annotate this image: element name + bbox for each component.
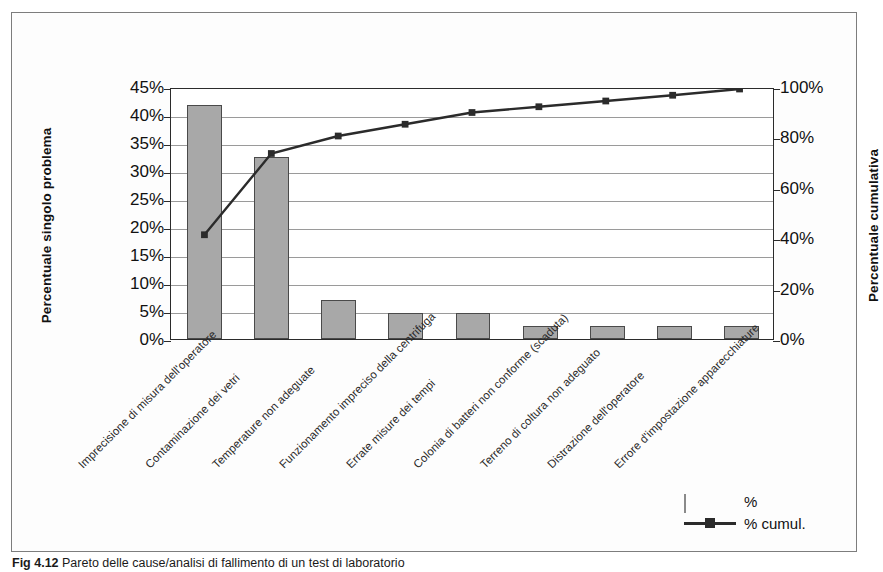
figure-frame: Percentuale singolo problema Percentuale…: [11, 12, 857, 552]
y-axis-right-tick-label: 80%: [780, 129, 836, 147]
y-axis-right-tick-label: 100%: [780, 79, 836, 97]
y-tick-mark-right: [773, 341, 780, 342]
y-axis-right-title: Percentuale cumulativa: [866, 126, 881, 326]
legend-swatch-icon: [684, 495, 736, 508]
legend: % % cumul.: [684, 490, 854, 534]
y-tick-mark-left: [164, 285, 171, 286]
y-tick-mark-left: [164, 173, 171, 174]
y-tick-mark-right: [773, 89, 780, 90]
y-axis-left-tick-label: 45%: [108, 79, 164, 97]
y-tick-mark-left: [164, 341, 171, 342]
y-tick-mark-right: [773, 139, 780, 140]
y-axis-right-ticks: 0%20%40%60%80%100%: [780, 79, 836, 331]
y-axis-left-tick-label: 25%: [108, 191, 164, 209]
cumulative-marker: Terreno di coltura non adeguato: 95.2%: [602, 98, 609, 105]
legend-line-marker-icon: [684, 517, 736, 530]
cumulative-marker: Errore d'impostazione apparecchiature: 1…: [736, 89, 743, 92]
y-tick-mark-left: [164, 257, 171, 258]
y-axis-left-tick-label: 5%: [108, 303, 164, 321]
y-tick-mark-left: [164, 201, 171, 202]
cumulative-marker: Errate misure dei tempi: 90.6%: [469, 109, 476, 116]
caption-text: Pareto delle cause/analisi di fallimento…: [62, 556, 405, 570]
y-tick-mark-left: [164, 145, 171, 146]
y-axis-right-tick-label: 40%: [780, 230, 836, 248]
y-axis-left-tick-label: 30%: [108, 163, 164, 181]
y-tick-mark-right: [773, 190, 780, 191]
legend-item-percent: %: [684, 490, 854, 512]
y-axis-left-tick-label: 15%: [108, 247, 164, 265]
x-axis-category-label: Terreno di coltura non adeguato: [478, 346, 602, 470]
legend-item-cumulative: % cumul.: [684, 512, 854, 534]
cumulative-marker: Contaminazione dei vetri: 74.2%: [268, 150, 275, 157]
cumulative-line-series: Imprecisione di misura dell'operatore: 4…: [171, 89, 773, 339]
cumulative-marker: Temperature non adeguate: 81.2%: [335, 133, 342, 140]
legend-label-cumulative: % cumul.: [744, 515, 806, 532]
plot-area: Imprecisione di misura dell'operatore: 4…: [170, 88, 774, 340]
x-axis-category-label: Imprecisione di misura dell'operatore: [76, 328, 218, 470]
cumulative-marker: Colonia di batteri non conforme (scaduta…: [536, 103, 543, 110]
y-axis-right-tick-label: 20%: [780, 281, 836, 299]
y-axis-left-tick-label: 40%: [108, 107, 164, 125]
y-tick-mark-left: [164, 89, 171, 90]
y-tick-mark-left: [164, 229, 171, 230]
cumulative-marker: Imprecisione di misura dell'operatore: 4…: [201, 231, 208, 238]
y-axis-left-title: Percentuale singolo problema: [39, 126, 54, 326]
caption-number: Fig 4.12: [12, 556, 59, 570]
y-axis-left-tick-label: 10%: [108, 275, 164, 293]
y-axis-left-tick-label: 20%: [108, 219, 164, 237]
x-axis-category-label: Errore d'impostazione apparecchiature: [612, 321, 761, 470]
y-axis-right-tick-label: 60%: [780, 180, 836, 198]
y-tick-mark-left: [164, 313, 171, 314]
y-tick-mark-left: [164, 117, 171, 118]
y-axis-left-ticks: 0%5%10%15%20%25%30%35%40%45%: [108, 79, 164, 331]
cumulative-marker: Distrazione dell'operatore: 97.5%: [669, 92, 676, 99]
y-tick-mark-right: [773, 240, 780, 241]
y-axis-left-tick-label: 35%: [108, 135, 164, 153]
cumulative-marker: Funzionamento impreciso della centrifuga…: [402, 121, 409, 128]
legend-label-percent: %: [744, 493, 757, 510]
y-tick-mark-right: [773, 291, 780, 292]
figure-caption: Fig 4.12 Pareto delle cause/analisi di f…: [12, 556, 862, 570]
